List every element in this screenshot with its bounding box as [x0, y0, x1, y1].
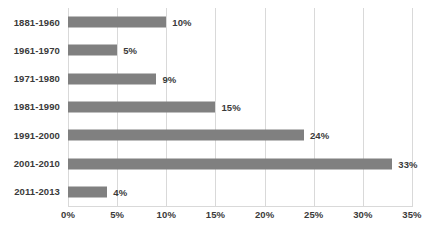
bar — [68, 130, 304, 141]
bar-value-label: 33% — [398, 158, 417, 169]
bar — [68, 17, 166, 28]
category-label: 1881-1960 — [0, 8, 60, 36]
category-label: 2011-2013 — [0, 178, 60, 206]
category-label: 1991-2000 — [0, 121, 60, 149]
bar-value-label: 10% — [172, 17, 191, 28]
x-tick-label: 35% — [402, 209, 421, 220]
category-label: 2001-2010 — [0, 149, 60, 177]
x-tick-label: 5% — [110, 209, 124, 220]
bar-row: 10% — [68, 8, 412, 36]
x-tick-label: 10% — [157, 209, 176, 220]
x-axis-line — [68, 206, 413, 207]
category-label-text: 2011-2013 — [14, 186, 60, 197]
bar-row: 33% — [68, 149, 412, 177]
category-axis-labels: 1881-19601961-19701971-19801981-19901991… — [0, 8, 68, 206]
bar-row: 15% — [68, 93, 412, 121]
bar-row: 24% — [68, 121, 412, 149]
bar — [68, 101, 215, 112]
plot-area: 10%5%9%15%24%33%4% — [68, 8, 412, 206]
bar — [68, 73, 156, 84]
category-label: 1971-1980 — [0, 65, 60, 93]
bar — [68, 186, 107, 197]
gridline-35% — [412, 8, 413, 206]
category-label-text: 2001-2010 — [14, 158, 60, 169]
bar-value-label: 24% — [310, 130, 329, 141]
x-tick-label: 30% — [353, 209, 372, 220]
bar-value-label: 5% — [123, 45, 137, 56]
bar-value-label: 9% — [162, 73, 176, 84]
bar-chart: 1881-19601961-19701971-19801981-19901991… — [0, 0, 441, 243]
bar-row: 4% — [68, 178, 412, 206]
x-tick-label: 0% — [61, 209, 75, 220]
bar — [68, 45, 117, 56]
category-label-text: 1881-1960 — [14, 17, 60, 28]
bar-value-label: 4% — [113, 186, 127, 197]
x-axis-tick-labels: 0%5%10%15%20%25%30%35% — [68, 209, 412, 227]
bar-value-label: 15% — [221, 101, 240, 112]
bar-row: 5% — [68, 36, 412, 64]
x-tick-label: 25% — [304, 209, 323, 220]
category-label-text: 1961-1970 — [14, 45, 60, 56]
category-label-text: 1971-1980 — [14, 73, 60, 84]
category-label-text: 1981-1990 — [14, 101, 60, 112]
category-label-text: 1991-2000 — [14, 130, 60, 141]
x-tick-label: 15% — [206, 209, 225, 220]
category-label: 1961-1970 — [0, 36, 60, 64]
bar-row: 9% — [68, 65, 412, 93]
category-label: 1981-1990 — [0, 93, 60, 121]
bar — [68, 158, 392, 169]
x-tick-label: 20% — [255, 209, 274, 220]
